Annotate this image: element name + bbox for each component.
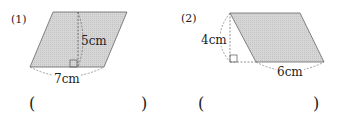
problem-2-height-label: 4cm	[200, 34, 228, 46]
problem-1-answer-close: )	[141, 96, 147, 112]
figures	[0, 0, 340, 119]
problem-1-base-label: 7cm	[53, 73, 81, 85]
problem-1-height-label: 5cm	[81, 35, 107, 47]
problem-2-base-label: 6cm	[276, 66, 304, 78]
problem-1-number: (1)	[11, 14, 27, 25]
problem-1-answer-open: (	[29, 96, 35, 112]
problem-2-answer-open: (	[198, 96, 204, 112]
problem-2-number: (2)	[181, 13, 197, 24]
parallelogram-2	[220, 13, 324, 71]
parallelogram-1	[30, 12, 127, 77]
problem-2-answer-close: )	[313, 96, 319, 112]
